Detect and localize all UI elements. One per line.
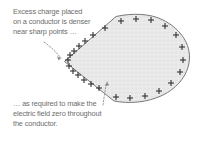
caption-bottom-line-2: electric field zero throughout	[13, 109, 101, 119]
caption-bottom-line-3: the conductor.	[13, 119, 101, 129]
caption-top: Excess charge placed on a conductor is d…	[13, 7, 90, 37]
caption-bottom-line-1: … as required to make the	[13, 99, 101, 109]
pointer-top-sharp-point	[44, 42, 61, 60]
caption-top-line-1: Excess charge placed	[13, 7, 90, 17]
caption-bottom: … as required to make the electric field…	[13, 99, 101, 129]
caption-top-line-3: near sharp points …	[13, 27, 90, 37]
charged-conductor-figure: Excess charge placed on a conductor is d…	[0, 0, 197, 142]
caption-top-line-2: on a conductor is denser	[13, 17, 90, 27]
